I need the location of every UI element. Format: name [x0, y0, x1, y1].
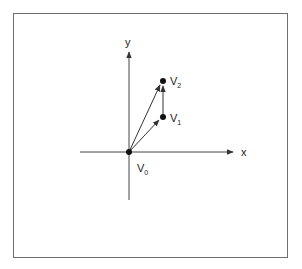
- vector-diagram: x y V0 V1 V2: [0, 0, 302, 269]
- point-v2: [160, 78, 166, 84]
- y-axis-label: y: [125, 36, 131, 48]
- point-v0: [126, 149, 132, 155]
- point-v1: [160, 114, 166, 120]
- label-v0: V0: [137, 162, 148, 176]
- label-v1: V1: [170, 112, 181, 126]
- vector-v0-v2: [129, 85, 160, 152]
- vector-v0-v1: [129, 120, 159, 152]
- x-axis-label: x: [241, 146, 247, 158]
- label-v2: V2: [170, 75, 181, 89]
